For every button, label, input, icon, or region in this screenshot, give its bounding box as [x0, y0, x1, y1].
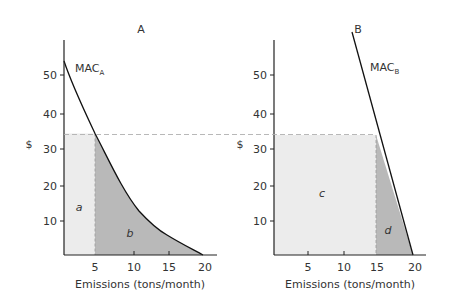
mac-a-label: MACA: [75, 62, 105, 77]
y-tick-label: 10: [43, 215, 57, 228]
x-tick-label: 20: [408, 261, 422, 274]
x-tick-label: 15: [162, 261, 176, 274]
x-tick-label: 10: [337, 261, 351, 274]
area-label-c: c: [319, 187, 325, 200]
x-tick-label: 5: [305, 261, 312, 274]
panel-title-b: B: [354, 23, 362, 36]
area-label-b: b: [127, 227, 134, 240]
x-tick-label: 20: [198, 261, 212, 274]
y-axis-title-b: $: [237, 138, 244, 151]
y-tick-label: 30: [253, 143, 267, 156]
panel-title-a: A: [137, 23, 145, 36]
area-b: [95, 134, 203, 256]
x-axis-title-a: Emissions (tons/month): [75, 278, 205, 291]
y-tick-label: 50: [253, 69, 267, 82]
y-tick-label: 40: [43, 108, 57, 121]
y-tick-label: 10: [253, 215, 267, 228]
panel-a: 50 40 30 20 10 5 10 15 20 A $ Emissions …: [26, 23, 218, 291]
x-tick-label: 10: [127, 261, 141, 274]
y-tick-label: 40: [253, 108, 267, 121]
x-tick-label: 5: [92, 261, 99, 274]
area-a: [64, 134, 95, 256]
mac-b-label: MACB: [370, 61, 400, 76]
x-axis-title-b: Emissions (tons/month): [285, 278, 415, 291]
panel-b: 50 40 30 20 10 5 10 15 20 B $ Emissions …: [237, 23, 427, 291]
y-axis-title-a: $: [26, 138, 33, 151]
y-tick-label: 20: [43, 180, 57, 193]
x-tick-label: 15: [370, 261, 384, 274]
y-tick-label: 30: [43, 143, 57, 156]
area-label-d: d: [385, 224, 393, 237]
chart-figure: 50 40 30 20 10 5 10 15 20 A $ Emissions …: [0, 0, 452, 304]
y-tick-label: 20: [253, 180, 267, 193]
area-label-a: a: [76, 201, 83, 214]
y-tick-label: 50: [43, 69, 57, 82]
